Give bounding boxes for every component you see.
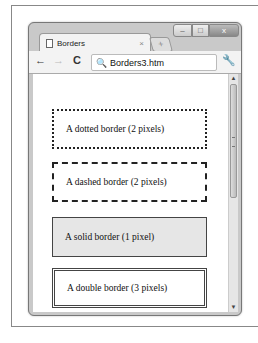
- double-border-box: A double border (3 pixels): [52, 268, 207, 308]
- page-viewport: A dotted border (2 pixels) A dashed bord…: [33, 74, 228, 312]
- grip-icon: [232, 137, 235, 147]
- box-label: A dashed border (2 pixels): [66, 177, 167, 187]
- scroll-down-icon[interactable]: ▼: [229, 303, 238, 312]
- vertical-scrollbar[interactable]: ▲ ▼: [228, 74, 238, 312]
- window-controls: – □ x: [173, 24, 239, 37]
- tab-borders[interactable]: Borders ×: [39, 33, 151, 52]
- forward-arrow-icon[interactable]: →: [53, 54, 64, 66]
- search-icon: 🔍: [96, 58, 107, 68]
- browser-window: – □ x Borders × + ← → C 🔍 Borders3.htm 🔧…: [28, 22, 242, 316]
- maximize-button[interactable]: □: [192, 24, 209, 37]
- back-arrow-icon[interactable]: ←: [35, 54, 46, 66]
- new-tab-button[interactable]: +: [149, 37, 173, 52]
- tab-title: Borders: [57, 39, 85, 48]
- minimize-button[interactable]: –: [173, 24, 192, 37]
- box-label: A solid border (1 pixel): [65, 232, 154, 242]
- wrench-icon[interactable]: 🔧: [222, 54, 236, 67]
- box-label: A dotted border (2 pixels): [66, 124, 164, 134]
- box-label: A double border (3 pixels): [67, 283, 167, 293]
- dashed-border-box: A dashed border (2 pixels): [52, 162, 207, 202]
- reload-icon[interactable]: C: [73, 54, 81, 66]
- scrollbar-thumb[interactable]: [230, 84, 237, 198]
- address-bar[interactable]: 🔍 Borders3.htm: [91, 54, 217, 71]
- tab-close-icon[interactable]: ×: [139, 39, 144, 48]
- scroll-up-icon[interactable]: ▲: [229, 74, 238, 83]
- toolbar: ← → C 🔍 Borders3.htm 🔧: [29, 51, 241, 74]
- page-icon: [46, 39, 53, 48]
- address-text: Borders3.htm: [110, 58, 164, 68]
- solid-border-box: A solid border (1 pixel): [52, 217, 207, 257]
- dotted-border-box: A dotted border (2 pixels): [52, 109, 207, 149]
- close-button[interactable]: x: [209, 24, 239, 37]
